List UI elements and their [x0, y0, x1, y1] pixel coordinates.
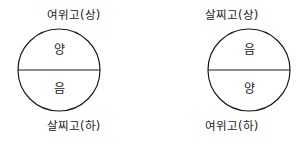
left-upper-half-label: 양	[17, 43, 101, 57]
left-bottom-caption: 살찌고(하)	[0, 119, 149, 133]
left-top-caption: 여위고(상)	[0, 8, 149, 22]
left-circle: 양 음	[17, 28, 101, 112]
right-circle: 음 양	[207, 28, 291, 112]
yin-yang-body-type-figure: 여위고(상) 양 음 살찌고(하) 살찌고(상) 음 양 여위고(하)	[0, 0, 302, 144]
left-circle-graphic	[17, 28, 101, 112]
right-circle-graphic	[207, 28, 291, 112]
left-diagram: 여위고(상) 양 음 살찌고(하)	[0, 0, 151, 144]
right-lower-half-label: 양	[207, 82, 291, 96]
right-top-caption: 살찌고(상)	[156, 8, 302, 22]
right-diagram: 살찌고(상) 음 양 여위고(하)	[151, 0, 302, 144]
right-upper-half-label: 음	[207, 43, 291, 57]
right-bottom-caption: 여위고(하)	[156, 119, 302, 133]
left-lower-half-label: 음	[17, 82, 101, 96]
